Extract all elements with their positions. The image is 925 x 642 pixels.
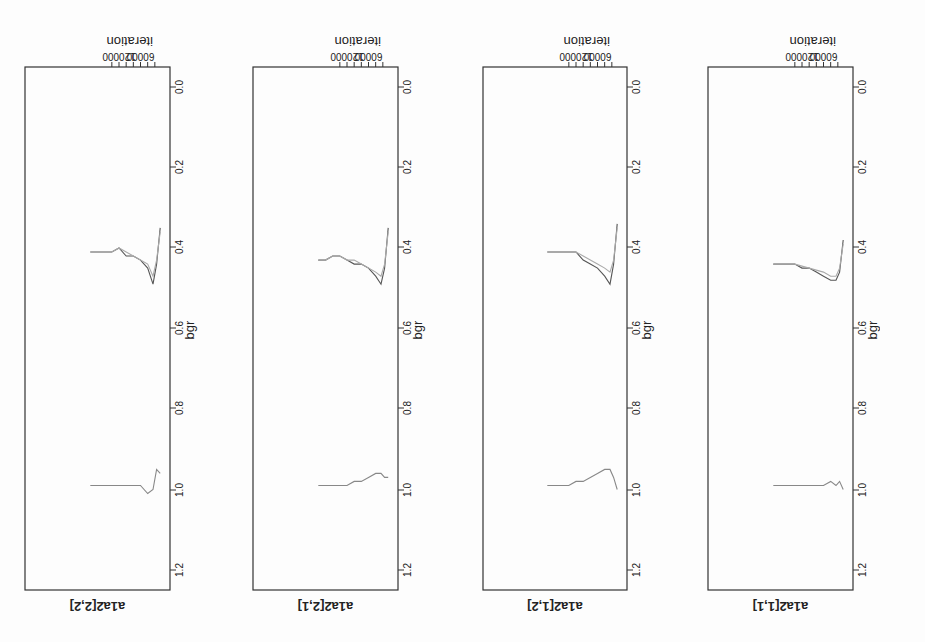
bgr-axis-label: bgr <box>410 320 425 339</box>
series-within-line <box>90 232 160 276</box>
bgr-tick-label: 0.8 <box>857 401 868 415</box>
plot-frame <box>708 67 853 590</box>
bgr-axis-label: bgr <box>865 320 880 339</box>
iteration-axis-label: iteration <box>335 34 381 49</box>
bgr-tick-label: 1.2 <box>402 563 413 577</box>
iteration-axis-label: iteration <box>564 34 610 49</box>
iteration-tick-label: 120000 <box>330 51 364 62</box>
bgr-tick-label: 1.2 <box>631 563 642 577</box>
panel-1: 0.00.20.40.60.81.01.2bgr60000120000itera… <box>708 34 880 614</box>
bgr-tick-label: 0.2 <box>174 160 185 174</box>
bgr-tick-label: 1.0 <box>174 483 185 497</box>
bgr-tick-label: 0.4 <box>174 240 185 254</box>
iteration-axis-label: iteration <box>790 34 836 49</box>
series-within-line <box>773 244 843 276</box>
series-ratio-line <box>90 469 160 493</box>
bgr-tick-label: 0.2 <box>857 160 868 174</box>
panel-2: 0.00.20.40.60.81.01.2bgr60000120000itera… <box>483 34 654 614</box>
panel-title: a1a2[1,1] <box>753 599 809 614</box>
bgr-tick-label: 1.2 <box>174 563 185 577</box>
bgr-tick-label: 0.8 <box>631 401 642 415</box>
iteration-tick-label: 120000 <box>559 51 593 62</box>
plot-frame <box>25 67 170 590</box>
series-ratio-line <box>318 473 388 485</box>
series-ratio-line <box>773 481 843 489</box>
series-within-line <box>318 232 388 276</box>
bgr-tick-label: 0.4 <box>857 240 868 254</box>
bgr-tick-label: 0.8 <box>402 401 413 415</box>
bgr-axis-label: bgr <box>182 320 197 339</box>
series-pooled-line <box>318 228 388 284</box>
bgr-tick-label: 1.0 <box>857 483 868 497</box>
bgr-tick-label: 0.0 <box>857 80 868 94</box>
plot-frame <box>253 67 398 590</box>
bgr-tick-label: 1.0 <box>402 483 413 497</box>
panel-title: a1a2[2,2] <box>70 599 126 614</box>
bgr-tick-label: 0.4 <box>402 240 413 254</box>
series-pooled-line <box>90 228 160 284</box>
bgr-tick-label: 1.0 <box>631 483 642 497</box>
series-within-line <box>547 228 617 272</box>
panel-4: 0.00.20.40.60.81.01.2bgr60000120000itera… <box>25 34 197 614</box>
iteration-tick-label: 120000 <box>102 51 136 62</box>
bgr-tick-label: 0.0 <box>631 80 642 94</box>
series-ratio-line <box>547 469 617 489</box>
bgr-tick-label: 1.2 <box>857 563 868 577</box>
series-pooled-line <box>773 240 843 280</box>
panel-title: a1a2[1,2] <box>527 599 583 614</box>
iteration-axis-label: iteration <box>107 34 153 49</box>
plot-frame <box>483 67 627 590</box>
bgr-diagnostic-figure: 0.00.20.40.60.81.01.2bgr60000120000itera… <box>0 0 925 642</box>
bgr-tick-label: 0.0 <box>174 80 185 94</box>
bgr-tick-label: 0.0 <box>402 80 413 94</box>
series-pooled-line <box>547 224 617 284</box>
panel-3: 0.00.20.40.60.81.01.2bgr60000120000itera… <box>253 34 425 614</box>
bgr-tick-label: 0.4 <box>631 240 642 254</box>
bgr-tick-label: 0.8 <box>174 401 185 415</box>
bgr-axis-label: bgr <box>639 320 654 339</box>
iteration-tick-label: 120000 <box>785 51 819 62</box>
figure-svg: 0.00.20.40.60.81.01.2bgr60000120000itera… <box>0 0 925 642</box>
bgr-tick-label: 0.2 <box>402 160 413 174</box>
bgr-tick-label: 0.2 <box>631 160 642 174</box>
panel-title: a1a2[2,1] <box>298 599 354 614</box>
